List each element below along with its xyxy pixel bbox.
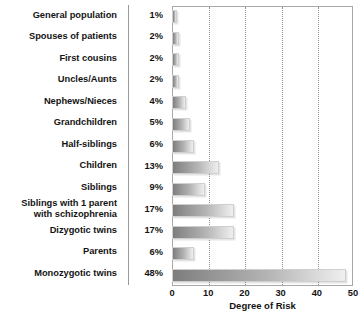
category-row: Siblings with 1 parent with schizophreni…	[0, 198, 172, 220]
category-row: Uncles/Aunts2%	[0, 69, 172, 91]
category-row: General population1%	[0, 4, 172, 26]
gridline	[209, 7, 210, 285]
category-row: First cousins2%	[0, 47, 172, 69]
value-label: 5%	[124, 117, 172, 127]
category-label: Siblings with 1 parent with schizophreni…	[0, 198, 124, 219]
plot-area	[172, 6, 353, 286]
category-row: Dizygotic twins17%	[0, 219, 172, 241]
category-label: Dizygotic twins	[0, 225, 124, 236]
gridline	[282, 7, 283, 285]
category-row: Monozygotic twins48%	[0, 262, 172, 284]
category-row: Siblings9%	[0, 176, 172, 198]
category-label: Spouses of patients	[0, 31, 124, 42]
x-tick-label: 50	[348, 288, 358, 298]
x-axis-title: Degree of Risk	[172, 300, 353, 311]
gridline	[318, 7, 319, 285]
category-label: Half-siblings	[0, 139, 124, 150]
value-label: 17%	[124, 225, 172, 235]
category-label: Grandchildren	[0, 117, 124, 128]
category-row: Children13%	[0, 155, 172, 177]
category-label: Nephews/Nieces	[0, 96, 124, 107]
value-label: 1%	[124, 10, 172, 20]
value-label: 48%	[124, 268, 172, 278]
category-label: Parents	[0, 246, 124, 257]
category-rows: General population1%Spouses of patients2…	[0, 4, 172, 286]
value-label: 9%	[124, 182, 172, 192]
category-row: Parents6%	[0, 241, 172, 263]
label-percent-divider	[128, 5, 129, 285]
value-label: 2%	[124, 31, 172, 41]
category-row: Nephews/Nieces4%	[0, 90, 172, 112]
x-tick-label: 0	[169, 288, 174, 298]
category-label: First cousins	[0, 53, 124, 64]
x-tick-label: 10	[203, 288, 213, 298]
category-label: Monozygotic twins	[0, 268, 124, 279]
x-tick-label: 20	[239, 288, 249, 298]
category-label: General population	[0, 10, 124, 21]
category-row: Spouses of patients2%	[0, 26, 172, 48]
category-label: Uncles/Aunts	[0, 74, 124, 85]
category-row: Grandchildren5%	[0, 112, 172, 134]
category-row: Half-siblings6%	[0, 133, 172, 155]
schizophrenia-risk-bar-chart: General population1%Spouses of patients2…	[0, 0, 364, 316]
value-label: 13%	[124, 161, 172, 171]
value-label: 6%	[124, 247, 172, 257]
x-tick-label: 40	[312, 288, 322, 298]
gridline	[245, 7, 246, 285]
value-label: 2%	[124, 53, 172, 63]
value-label: 6%	[124, 139, 172, 149]
value-label: 4%	[124, 96, 172, 106]
category-label: Siblings	[0, 182, 124, 193]
value-label: 17%	[124, 204, 172, 214]
x-tick-label: 30	[275, 288, 285, 298]
category-label: Children	[0, 160, 124, 171]
value-label: 2%	[124, 74, 172, 84]
